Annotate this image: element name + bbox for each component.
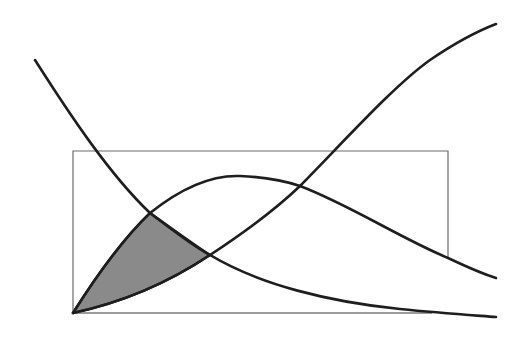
curve-diagram [0, 0, 513, 347]
shaded-region [73, 213, 210, 313]
